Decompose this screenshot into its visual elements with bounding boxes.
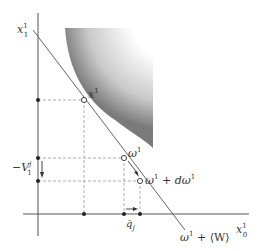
budget-line-label: ω1 + ⟨W⟩ xyxy=(180,230,230,244)
point-omega1 xyxy=(121,155,126,160)
q-bar-arrowhead xyxy=(133,207,138,211)
point-omega1-domega1-label: ω1 + dω1 xyxy=(145,173,195,187)
y-axis-label: x11 xyxy=(17,22,28,39)
x-axis-label: x10 xyxy=(236,222,247,239)
neg-v-arrowhead xyxy=(40,172,44,178)
neg-v-label: −Vj1 xyxy=(12,160,32,177)
q-bar-label: q̄j xyxy=(126,218,135,232)
point-omega1-plus-domega1 xyxy=(137,178,142,183)
diagram-canvas: x11 x10 x1 ω1 ω1 + dω1 −Vj1 q̄j ω1 + ⟨W⟩ xyxy=(0,0,261,251)
point-x1 xyxy=(81,97,86,102)
shift-arrowhead xyxy=(134,171,139,177)
point-omega1-label: ω1 xyxy=(128,146,141,160)
